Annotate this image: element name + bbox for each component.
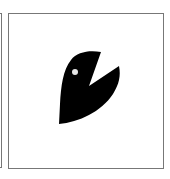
previous-image-tile[interactable] bbox=[0, 13, 2, 168]
bird-head-icon bbox=[9, 14, 165, 170]
image-tile[interactable] bbox=[8, 13, 164, 169]
